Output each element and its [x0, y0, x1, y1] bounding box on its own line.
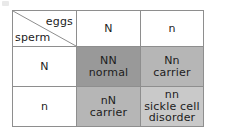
cell-nN-genotype: nN	[77, 95, 140, 107]
sperm-axis-label: sperm	[15, 32, 51, 43]
column-header-N-label: N	[104, 22, 112, 35]
column-header-N: N	[77, 11, 141, 47]
table-row-header: eggs sperm N n	[13, 11, 204, 47]
eggs-axis-label: eggs	[46, 16, 73, 27]
row-header-n: n	[13, 87, 77, 127]
cell-NN-phenotype: normal	[77, 67, 140, 79]
table-row: n nN carrier nn sickle cell disorder	[13, 87, 204, 127]
cell-NN-genotype: NN	[77, 55, 140, 67]
cell-nn: nn sickle cell disorder	[141, 87, 204, 127]
punnett-square-table: eggs sperm N n N NN normal Nn carrier	[12, 10, 204, 127]
column-header-n: n	[141, 11, 204, 47]
cell-Nn: Nn carrier	[141, 47, 204, 87]
cell-nn-phenotype-line2: disorder	[141, 112, 203, 124]
row-header-N: N	[13, 47, 77, 87]
cell-Nn-phenotype: carrier	[141, 67, 203, 79]
table-row: N NN normal Nn carrier	[13, 47, 204, 87]
column-header-n-label: n	[168, 22, 175, 35]
row-header-N-label: N	[40, 60, 48, 73]
scan-artifact	[2, 1, 9, 6]
cell-Nn-genotype: Nn	[141, 55, 203, 67]
cell-nN: nN carrier	[77, 87, 141, 127]
corner-header-cell: eggs sperm	[13, 11, 77, 47]
row-header-n-label: n	[41, 100, 48, 113]
cell-NN: NN normal	[77, 47, 141, 87]
cell-nN-phenotype: carrier	[77, 107, 140, 119]
